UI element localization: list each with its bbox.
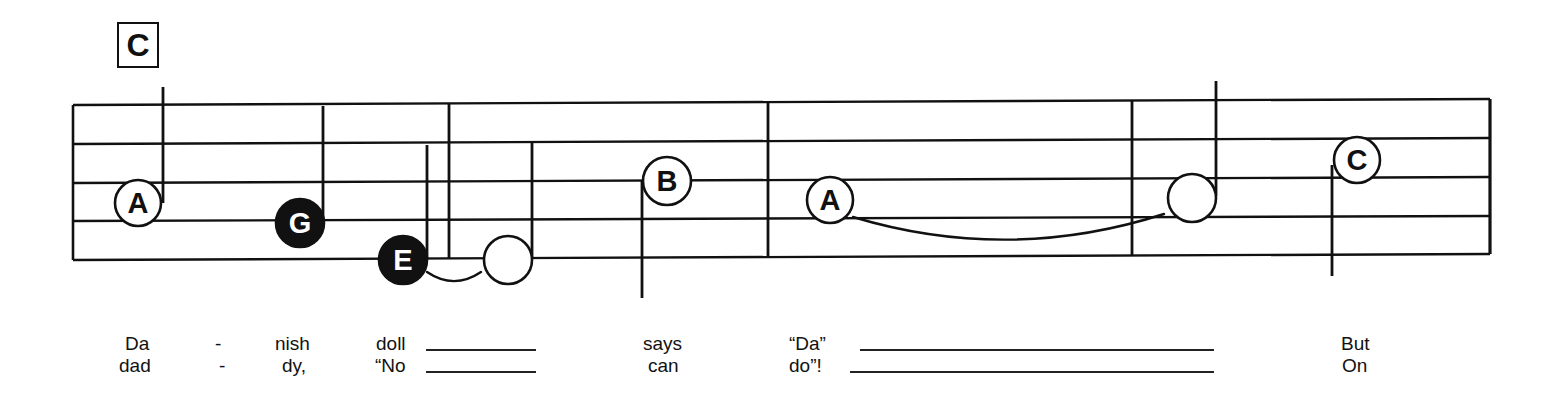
lyric-syllable: - [219,355,225,377]
note-letter-label: B [657,165,678,197]
lyric-extender-line [426,371,536,373]
note-a: A [807,177,853,223]
lyric-syllable: dad [119,355,151,377]
staff-line [73,254,1490,260]
lyric-extender-line [426,349,536,351]
ties [427,214,1164,281]
notes: AGEBAC [115,81,1380,298]
lyric-extender-line [850,371,1214,373]
lyric-syllable: nish [275,333,310,355]
note-open [1168,81,1216,222]
lyric-syllable: do”! [789,355,822,377]
lyric-syllable: doll [376,333,406,355]
lyric-syllable: Da [125,333,149,355]
note-open [484,143,532,284]
note-letter-label: C [1347,144,1368,176]
music-staff-score: AGEBAC [0,0,1548,404]
note-letter-label: G [289,207,312,239]
tie-curve [427,272,481,281]
note-letter-label: E [393,244,412,276]
staff-line [73,177,1490,183]
lyric-syllable: - [215,333,221,355]
notehead [484,236,532,284]
note-b: B [642,157,691,298]
lyric-syllable: “No [375,355,406,377]
lyric-extender-line [860,349,1214,351]
lyric-syllable: says [643,333,682,355]
lyric-syllable: “Da” [789,333,826,355]
note-g-filled: G [276,106,324,247]
lyric-syllable: But [1341,333,1370,355]
note-e-filled: E [379,145,427,284]
notehead [1168,174,1216,222]
staff-line [73,99,1490,105]
note-letter-label: A [128,187,149,219]
lyric-syllable: dy, [282,355,306,377]
note-a: A [115,87,163,226]
staff-line [73,138,1490,144]
lyric-syllable: On [1342,355,1367,377]
lyric-syllable: can [648,355,679,377]
note-letter-label: A [820,184,841,216]
